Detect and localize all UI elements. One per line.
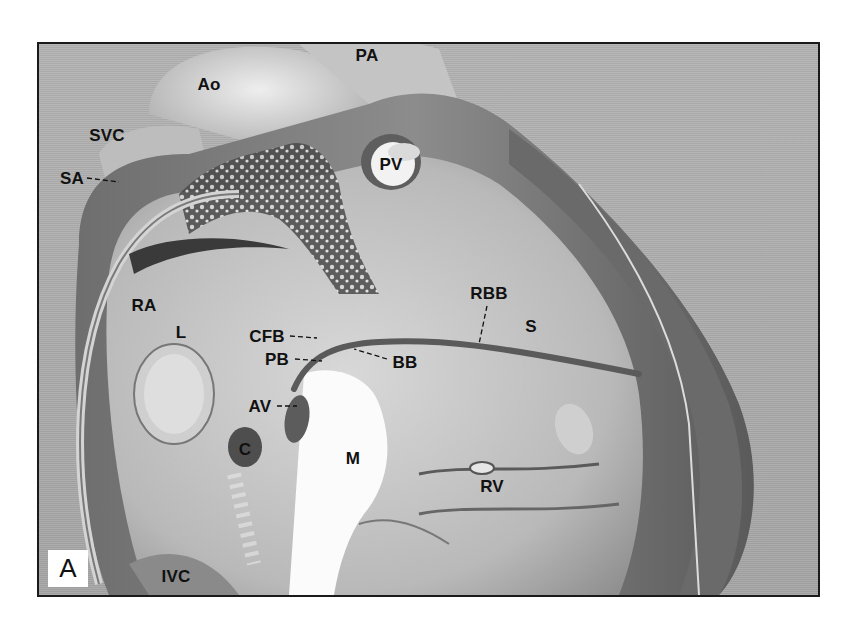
label-limbus: L — [176, 324, 187, 341]
panel-label-box: A — [48, 550, 88, 587]
label-pulmonary-valve: PV — [379, 156, 402, 173]
label-penetrating-bundle: PB — [265, 351, 289, 368]
label-aorta: Ao — [197, 76, 220, 93]
label-right-atrium: RA — [132, 297, 157, 314]
label-central-fibrous-body: CFB — [249, 328, 285, 345]
label-sinoatrial-node: SA — [60, 170, 84, 187]
heart-dissection-photo — [39, 44, 818, 595]
label-coronary-sinus: C — [239, 441, 251, 458]
label-inferior-vena-cava: IVC — [162, 568, 191, 585]
label-membranous-septum: M — [346, 450, 360, 467]
label-superior-vena-cava: SVC — [89, 127, 125, 144]
panel-label: A — [59, 553, 76, 584]
label-branching-bundle: BB — [393, 354, 418, 371]
label-septum: S — [525, 318, 537, 335]
label-pulmonary-artery: PA — [356, 47, 379, 64]
label-right-bundle-branch: RBB — [470, 285, 507, 302]
heart-specimen-figure: Ao PA SVC SA PV RA L CFB PB BB AV C M RB… — [37, 42, 820, 597]
label-av-node: AV — [249, 398, 272, 415]
label-right-ventricle: RV — [480, 478, 504, 495]
